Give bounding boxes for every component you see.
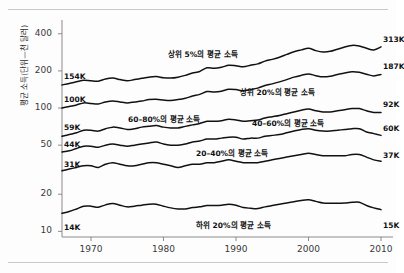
- series-start-label: 44K: [64, 140, 80, 149]
- series-end-label: 60K: [383, 124, 399, 133]
- x-tick-label: 2000: [289, 244, 329, 254]
- series-start-label: 59K: [64, 123, 80, 132]
- series-annotation: 20–40%의 평균 소득: [196, 147, 268, 158]
- series-end-label: 15K: [383, 221, 399, 230]
- y-tick-label: 10: [22, 225, 52, 235]
- series-start-label: 100K: [64, 95, 85, 104]
- series-start-label: 154K: [64, 72, 85, 81]
- series-annotation: 하위 20%의 평균 소득: [196, 219, 271, 230]
- series-line: [62, 72, 381, 108]
- series-end-label: 187K: [383, 62, 404, 71]
- series-group: [62, 45, 381, 213]
- series-end-label: 92K: [383, 100, 399, 109]
- x-tick-label: 1990: [216, 244, 256, 254]
- y-tick-label: 20: [22, 188, 52, 198]
- series-annotation: 상위 20%의 평균 소득: [240, 86, 315, 97]
- y-tick-label: 100: [22, 102, 52, 112]
- series-annotation: 40–60%의 평균 소득: [252, 117, 324, 128]
- x-tick-label: 1980: [144, 244, 184, 254]
- series-end-label: 313K: [383, 35, 404, 44]
- series-start-label: 14K: [64, 223, 80, 232]
- series-line: [62, 200, 381, 213]
- y-tick-label: 50: [22, 139, 52, 149]
- series-line: [62, 108, 381, 136]
- series-end-label: 37K: [383, 151, 399, 160]
- y-tick-label: 200: [22, 65, 52, 75]
- series-annotation: 60–80%의 평균 소득: [128, 113, 200, 124]
- x-tick-label: 1970: [71, 244, 111, 254]
- y-tick-label: 400: [22, 28, 52, 38]
- x-tick-label: 2010: [361, 244, 401, 254]
- series-start-label: 31K: [64, 160, 80, 169]
- series-annotation: 상위 5%의 평균 소득: [168, 48, 238, 59]
